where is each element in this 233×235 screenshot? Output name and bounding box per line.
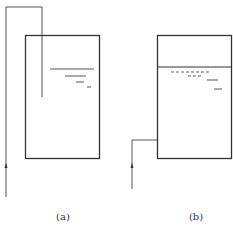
flow-arrow-icon-b <box>131 163 134 168</box>
inlet-pipe-b <box>132 140 157 189</box>
diagram-canvas <box>0 0 233 235</box>
panel-label-b: (b) <box>189 211 203 222</box>
flow-arrow-icon-a <box>5 163 8 168</box>
tank-b <box>158 36 232 159</box>
tank-a <box>26 36 100 159</box>
panel-b <box>131 36 232 190</box>
panel-label-a: (a) <box>56 211 70 222</box>
panel-a <box>5 7 100 197</box>
